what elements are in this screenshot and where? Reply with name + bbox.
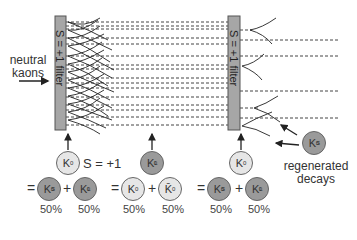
- k0bar-particle-2: K̄0: [158, 177, 182, 201]
- k0-particle-1: K0: [56, 151, 80, 175]
- sup: 0: [243, 160, 246, 166]
- dashed-beam-lines: [66, 22, 228, 125]
- sup: 0: [259, 186, 262, 192]
- kl-particle-2: KL0: [140, 151, 164, 175]
- k0-particle-2: K0: [121, 177, 145, 201]
- regenerated-decays-label: regenerated decays: [279, 160, 353, 186]
- sup: 0: [172, 186, 175, 192]
- k0-particle-3: K0: [229, 151, 253, 175]
- regenerated-ks-particle: KS0: [302, 131, 326, 155]
- percent-3a: 50%: [210, 203, 232, 215]
- sup: 0: [135, 186, 138, 192]
- strangeness-note: S = +1: [83, 157, 121, 170]
- symbol: K: [44, 183, 51, 195]
- symbol: K: [128, 183, 135, 195]
- percent-1b: 50%: [78, 203, 100, 215]
- symbol: K̄: [165, 183, 172, 195]
- kl-particle-1: KL0: [73, 177, 97, 201]
- regen-arrow-1: [281, 125, 297, 135]
- sup: 0: [154, 160, 157, 166]
- ks-particle-3: KS0: [207, 177, 231, 201]
- kl-particle-3: KL0: [245, 177, 269, 201]
- neutral-kaons-label: neutral kaons: [4, 54, 52, 80]
- percent-1a: 50%: [40, 203, 62, 215]
- dashed-beam-lines-after: [240, 30, 340, 118]
- plus-sign-2: +: [148, 180, 156, 196]
- equals-sign-3: =: [197, 180, 205, 196]
- filter-2-label: S = +1 filter: [228, 30, 240, 86]
- neutral-label-line2: kaons: [4, 67, 52, 80]
- symbol: K: [236, 157, 243, 169]
- ks-particle-1: KS0: [37, 177, 61, 201]
- symbol: K: [214, 183, 221, 195]
- sup: 0: [51, 186, 54, 192]
- regen-label-line2: decays: [279, 173, 353, 186]
- sup: 0: [87, 186, 90, 192]
- sup: 0: [70, 160, 73, 166]
- sup: 0: [316, 140, 319, 146]
- regen-arrow-2: [276, 143, 299, 145]
- symbol: K: [309, 137, 316, 149]
- filter-1-label: S = +1 filter: [54, 30, 66, 86]
- plus-sign-1: +: [63, 180, 71, 196]
- plus-sign-3: +: [235, 180, 243, 196]
- sup: 0: [221, 186, 224, 192]
- percent-3b: 50%: [248, 203, 270, 215]
- equals-sign-1: =: [27, 180, 35, 196]
- symbol: K: [63, 157, 70, 169]
- percent-2b: 50%: [162, 203, 184, 215]
- percent-2a: 50%: [123, 203, 145, 215]
- equals-sign-2: =: [111, 180, 119, 196]
